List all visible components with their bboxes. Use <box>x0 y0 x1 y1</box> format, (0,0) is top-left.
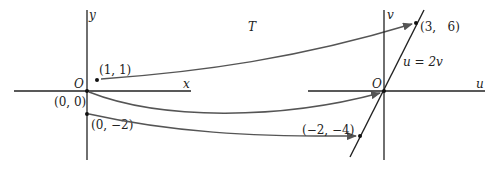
point-label-1-1: (1, 1) <box>99 63 131 77</box>
transform-label: T <box>248 20 257 34</box>
line-label: u = 2v <box>403 55 443 69</box>
point-label-0-0: (0, 0) <box>54 95 86 109</box>
point-origin-uv <box>382 89 386 93</box>
transformation-diagram: y x O (1, 1) (0, 0) (0, −2) T v u O u = … <box>0 0 499 170</box>
point-neg2-neg4 <box>358 134 362 138</box>
v-axis-label: v <box>387 8 394 22</box>
point-label-neg2-neg4: (−2, −4) <box>302 123 354 137</box>
point-0-0 <box>85 89 89 93</box>
point-label-0-neg2: (0, −2) <box>91 118 133 132</box>
origin-label-uv: O <box>372 77 382 91</box>
mapping-arrows <box>89 24 412 136</box>
origin-label: O <box>74 77 84 91</box>
arrow-1-1-to-3-6 <box>101 24 412 79</box>
point-0-neg2 <box>85 112 89 116</box>
point-label-3-6: (3, 6) <box>420 20 460 34</box>
point-3-6 <box>414 21 418 25</box>
arrow-0-0-to-origin <box>89 92 380 113</box>
point-1-1 <box>95 78 99 82</box>
y-axis-label: y <box>88 8 96 22</box>
u-axis-label: u <box>476 77 484 91</box>
x-axis-label: x <box>183 77 190 91</box>
left-plane: y x O (1, 1) (0, 0) (0, −2) <box>14 8 191 160</box>
right-plane: v u O u = 2v (3, 6) (−2, −4) <box>302 8 485 160</box>
